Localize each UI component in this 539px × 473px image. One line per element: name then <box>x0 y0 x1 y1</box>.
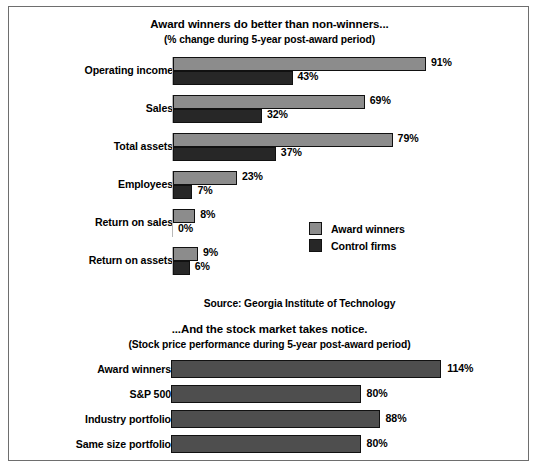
bar-stock-performance <box>171 410 380 428</box>
bar-value-label: 9% <box>203 246 218 258</box>
bottom-chart-title-block: ...And the stock market takes notice. (S… <box>9 322 530 352</box>
bar-award-winners <box>173 95 365 109</box>
bar-award-winners <box>173 171 237 185</box>
top-chart-title-block: Award winners do better than non-winners… <box>9 17 530 47</box>
bar-group: Operating income91%43% <box>9 57 530 85</box>
bar-value-label: 32% <box>267 108 288 120</box>
category-label: Total assets <box>114 140 173 152</box>
bar-value-label: 6% <box>195 260 210 272</box>
top-chart-legend: Award winners Control firms <box>309 220 405 254</box>
bar-control-firms <box>173 147 276 161</box>
bar-award-winners <box>173 57 426 71</box>
bar-value-label: 69% <box>370 94 391 106</box>
bar-group: Employees23%7% <box>9 171 530 199</box>
bar-value-label: 43% <box>298 70 319 82</box>
category-label: Return on assets <box>89 254 173 266</box>
bar-value-label: 0% <box>178 222 193 234</box>
bar-value-label: 79% <box>398 132 419 144</box>
bottom-chart-subtitle: (Stock price performance during 5-year p… <box>9 337 530 352</box>
bar-value-label: 7% <box>197 184 212 196</box>
top-chart-plot-area: Operating income91%43%Sales69%32%Total a… <box>9 57 530 292</box>
legend-swatch-icon-award-winners <box>309 222 322 235</box>
category-label: Employees <box>118 178 173 190</box>
bar-stock-performance <box>171 435 361 453</box>
bar-value-label: 80% <box>367 437 388 449</box>
bar-award-winners <box>173 247 198 261</box>
category-label: S&P 500 <box>129 388 171 400</box>
bar-value-label: 80% <box>367 387 388 399</box>
legend-item-control-firms: Control firms <box>309 237 405 254</box>
bar-value-label: 37% <box>281 146 302 158</box>
category-label: Industry portfolio <box>85 413 171 425</box>
top-chart-title: Award winners do better than non-winners… <box>9 17 530 32</box>
bar-value-label: 91% <box>431 56 452 68</box>
bar-value-label: 8% <box>200 208 215 220</box>
bar-group: Return on sales8%0% <box>9 209 530 237</box>
chart-frame: Award winners do better than non-winners… <box>8 6 529 461</box>
bar-control-firms <box>173 109 262 123</box>
bar-value-label: 88% <box>386 412 407 424</box>
bar-group: Total assets79%37% <box>9 133 530 161</box>
top-chart-subtitle: (% change during 5-year post-award perio… <box>9 32 530 47</box>
category-label: Award winners <box>97 363 171 375</box>
bar-value-label: 23% <box>242 170 263 182</box>
bar-row: S&P 50080% <box>9 384 530 406</box>
legend-label-award-winners: Award winners <box>331 223 405 235</box>
bar-row: Industry portfolio88% <box>9 409 530 431</box>
bottom-chart-title: ...And the stock market takes notice. <box>9 322 530 337</box>
bottom-chart-plot-area: Award winners114%S&P 50080%Industry port… <box>9 359 530 459</box>
bar-control-firms <box>173 71 293 85</box>
bar-award-winners <box>173 133 393 147</box>
bar-stock-performance <box>171 385 361 403</box>
bar-value-label: 114% <box>447 362 473 374</box>
category-label: Same size portfolio <box>76 438 171 450</box>
category-label: Sales <box>146 102 173 114</box>
category-label: Return on sales <box>95 216 173 228</box>
bar-control-firms <box>173 261 190 275</box>
bar-stock-performance <box>171 360 441 378</box>
bar-row: Same size portfolio80% <box>9 434 530 456</box>
legend-swatch-icon-control-firms <box>309 239 322 252</box>
bar-award-winners <box>173 209 195 223</box>
bar-group: Return on assets9%6% <box>9 247 530 275</box>
bar-row: Award winners114% <box>9 359 530 381</box>
bar-group: Sales69%32% <box>9 95 530 123</box>
legend-label-control-firms: Control firms <box>331 240 396 252</box>
legend-item-award-winners: Award winners <box>309 220 405 237</box>
bar-control-firms <box>173 185 192 199</box>
source-attribution: Source: Georgia Institute of Technology <box>9 298 530 309</box>
category-label: Operating income <box>85 64 173 76</box>
